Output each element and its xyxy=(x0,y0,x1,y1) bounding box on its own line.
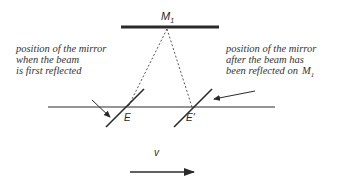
velocity-indicator: v xyxy=(130,147,194,172)
mirror-reflection-diagram: M1 E E' position of the mirror when the … xyxy=(0,0,341,185)
left-caption: position of the mirror when the beam is … xyxy=(15,43,107,76)
beam-reflected xyxy=(167,29,192,107)
right-caption-line-3: been reflected onM1 xyxy=(226,65,314,79)
label-e-prime: E' xyxy=(186,112,196,123)
mirror-position-e: E xyxy=(106,89,144,127)
top-mirror-label: M1 xyxy=(161,10,174,24)
left-caption-line-1: position of the mirror xyxy=(15,43,107,54)
right-caption: position of the mirror after the beam ha… xyxy=(225,43,317,79)
left-pointer-arrow xyxy=(92,100,110,117)
velocity-label: v xyxy=(154,147,160,158)
left-caption-line-2: when the beam xyxy=(16,54,79,65)
label-e: E xyxy=(124,112,131,123)
right-caption-line-2: after the beam has xyxy=(226,54,304,65)
left-caption-line-3: is first reflected xyxy=(16,65,82,76)
mirror-position-e-prime: E' xyxy=(174,89,212,127)
beam-incoming xyxy=(128,29,167,107)
right-pointer-arrow xyxy=(214,91,255,99)
right-caption-line-1: position of the mirror xyxy=(225,43,317,54)
top-mirror: M1 xyxy=(121,10,219,27)
